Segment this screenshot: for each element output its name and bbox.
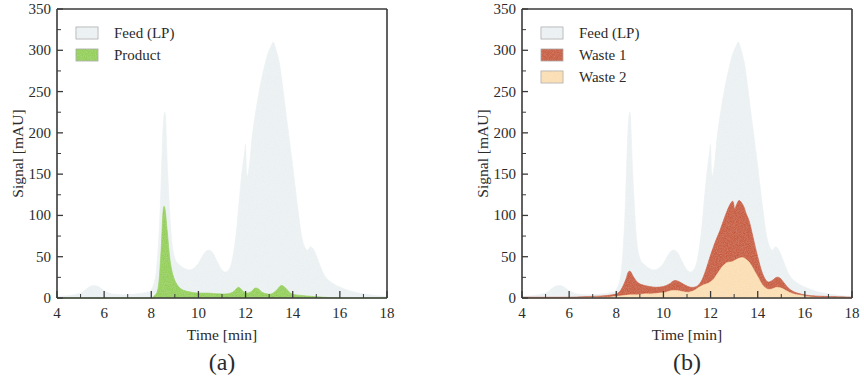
x-tick-label: 16 [797,305,813,321]
legend-label: Waste 2 [579,69,627,85]
x-tick-label: 12 [238,305,253,321]
x-tick-label: 16 [332,305,348,321]
x-tick-label: 18 [845,305,860,321]
x-tick-label: 6 [565,305,573,321]
x-tick-label: 10 [656,305,671,321]
panel-b: 0501001502002503003504681012141618Time [… [432,0,864,377]
legend-item[interactable]: Waste 2 [541,69,627,85]
series-group [522,42,852,298]
legend-item[interactable]: Waste 1 [541,47,627,63]
x-tick-label: 14 [750,305,766,321]
x-tick-label: 18 [380,305,395,321]
x-tick-label: 12 [703,305,718,321]
legend-label: Feed (LP) [579,25,639,42]
legend-label: Feed (LP) [114,25,174,42]
area-texture [522,42,852,298]
x-tick-label: 4 [518,305,526,321]
legend: Feed (LP)Waste 1Waste 2 [541,25,639,85]
axes-frame [57,9,387,298]
y-tick-label: 50 [501,249,516,265]
x-tick-label: 8 [613,305,621,321]
y-tick-label: 100 [494,207,517,223]
x-axis-title: Time [min] [652,326,722,343]
panel-a: 0501001502002503003504681012141618Time [… [0,0,432,377]
panel-label: (b) [673,349,701,375]
panel-a-plot: 0501001502002503003504681012141618Time [… [0,0,432,377]
legend-item[interactable]: Feed (LP) [541,25,639,42]
x-tick-label: 8 [148,305,156,321]
legend: Feed (LP)Product [76,25,174,63]
y-tick-label: 0 [44,290,52,306]
y-tick-label: 200 [494,125,517,141]
y-axis-title: Signal [mAU] [474,109,491,197]
legend-swatch-texture [541,49,563,61]
y-tick-label: 350 [29,1,52,17]
area-texture [57,42,387,298]
y-tick-label: 200 [29,125,52,141]
legend-swatch-texture [541,27,563,39]
chromatogram-figure: 0501001502002503003504681012141618Time [… [0,0,864,377]
legend-item[interactable]: Feed (LP) [76,25,174,42]
y-tick-label: 50 [36,249,51,265]
series-group [57,42,387,298]
y-tick-label: 0 [509,290,517,306]
area-feed-lp [57,42,387,298]
y-tick-label: 250 [494,84,517,100]
x-tick-label: 10 [191,305,206,321]
legend-swatch-texture [76,49,98,61]
x-axis-title: Time [min] [187,326,257,343]
panel-b-plot: 0501001502002503003504681012141618Time [… [432,0,864,377]
panel-label: (a) [209,349,236,375]
y-axis: 050100150200250300350 [29,1,64,306]
legend-swatch-texture [541,71,563,83]
axes-frame [522,9,852,298]
x-tick-label: 14 [285,305,301,321]
y-axis-title: Signal [mAU] [9,109,26,197]
y-tick-label: 150 [29,166,52,182]
y-tick-label: 300 [494,42,517,58]
y-tick-label: 350 [494,1,517,17]
legend-label: Waste 1 [579,47,627,63]
y-tick-label: 150 [494,166,517,182]
y-tick-label: 100 [29,207,52,223]
x-tick-label: 4 [53,305,61,321]
legend-swatch-texture [76,27,98,39]
legend-label: Product [114,47,161,63]
y-axis: 050100150200250300350 [494,1,529,306]
y-tick-label: 250 [29,84,52,100]
legend-item[interactable]: Product [76,47,161,63]
x-tick-label: 6 [100,305,108,321]
area-feed-lp [522,42,852,298]
y-tick-label: 300 [29,42,52,58]
